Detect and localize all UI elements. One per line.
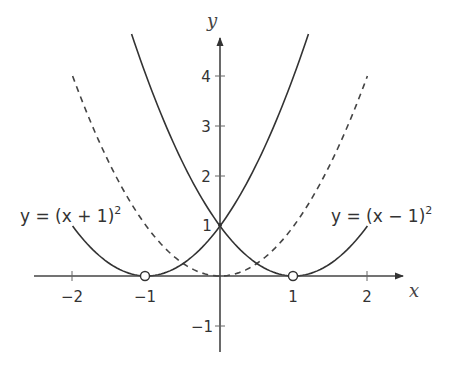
y-axis-label: y: [206, 10, 218, 31]
equation-right-exponent: 2: [425, 204, 432, 217]
y-tick-label-neg1: −1: [191, 318, 213, 336]
equation-label-left: y = (x + 1)2: [20, 204, 121, 226]
equation-label-right: y = (x − 1)2: [331, 204, 432, 226]
equation-left-main: y = (x + 1): [20, 206, 114, 226]
equation-left-exponent: 2: [114, 204, 121, 217]
curve-y-equals-x-plus-1-squared: [73, 34, 309, 276]
x-tick-label-neg2: −2: [61, 288, 83, 306]
intersection-point: [218, 223, 222, 227]
x-tick-label-neg1: −1: [134, 288, 156, 306]
y-tick-label-3: 3: [201, 118, 211, 136]
equation-right-main: y = (x − 1): [331, 206, 425, 226]
curve-y-equals-x-minus-1-squared: [132, 34, 368, 276]
x-axis-label: x: [409, 280, 419, 301]
y-tick-label-4: 4: [201, 68, 211, 86]
open-circle-neg1: [141, 272, 150, 281]
y-tick-label-1: 1: [202, 217, 212, 235]
y-tick-label-2: 2: [201, 168, 211, 186]
open-circle-1: [289, 272, 298, 281]
x-tick-label-1: 1: [288, 288, 298, 306]
parabola-graph: −2 −1 1 2 4 3 2 1 −1 y x y = (x + 1)2 y …: [0, 0, 450, 377]
x-tick-label-2: 2: [362, 288, 372, 306]
